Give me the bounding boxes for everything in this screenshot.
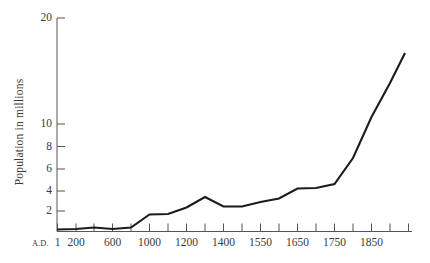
x-tick-marks xyxy=(58,224,409,232)
plot-area xyxy=(0,0,430,263)
population-data-line xyxy=(57,53,405,230)
y-tick-marks xyxy=(57,18,65,211)
population-chart: Population in millions 20 10 8 6 4 2 A.D… xyxy=(0,0,430,263)
